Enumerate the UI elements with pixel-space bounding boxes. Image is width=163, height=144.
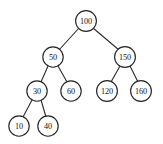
- tree-edge: [23, 100, 32, 117]
- node-label: 60: [67, 87, 75, 96]
- node-label: 150: [119, 53, 131, 62]
- tree-nodes-group: 1005015030601201601040: [9, 11, 152, 137]
- tree-node-50[interactable]: 50: [43, 47, 63, 67]
- tree-edge: [93, 28, 119, 50]
- tree-edge: [41, 100, 46, 117]
- node-label: 120: [101, 87, 113, 96]
- node-label: 160: [135, 87, 147, 96]
- tree-edge: [59, 28, 79, 50]
- node-label: 10: [15, 122, 23, 131]
- tree-node-100[interactable]: 100: [76, 11, 97, 32]
- node-label: 30: [33, 87, 41, 96]
- tree-edge: [58, 66, 67, 82]
- tree-node-10[interactable]: 10: [9, 116, 29, 136]
- tree-edge: [41, 66, 48, 82]
- tree-node-30[interactable]: 30: [27, 81, 47, 101]
- node-label: 100: [80, 17, 92, 26]
- tree-node-160[interactable]: 160: [131, 81, 152, 102]
- node-label: 40: [44, 122, 52, 131]
- tree-canvas: 1005015030601201601040: [0, 0, 163, 144]
- tree-node-40[interactable]: 40: [38, 116, 58, 136]
- tree-edge: [130, 66, 138, 82]
- binary-search-tree-figure: 1005015030601201601040: [0, 0, 163, 144]
- node-label: 50: [49, 53, 57, 62]
- tree-node-120[interactable]: 120: [97, 81, 118, 102]
- tree-edge: [111, 66, 120, 82]
- tree-edges-group: [23, 28, 138, 117]
- tree-node-150[interactable]: 150: [115, 47, 136, 68]
- tree-node-60[interactable]: 60: [61, 81, 81, 101]
